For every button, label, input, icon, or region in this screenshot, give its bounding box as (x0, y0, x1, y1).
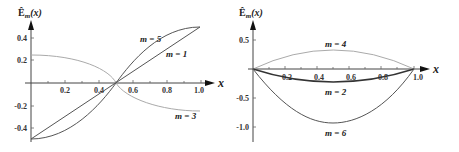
left-ytick-neg0.2: -0.2 (14, 102, 27, 111)
left-xtick-0.6: 0.6 (128, 86, 138, 95)
left-x-label: x (217, 76, 224, 90)
right-x-arrow-icon (420, 66, 430, 72)
right-ytick-neg1.0: -1.0 (236, 123, 249, 132)
left-xtick-0.8: 0.8 (162, 86, 172, 95)
right-y-label: Êm(x) (239, 7, 263, 20)
left-ytick-0.4: 0.4 (17, 34, 27, 43)
left-y-arrow-icon (28, 20, 34, 30)
label-m4: m = 4 (325, 39, 347, 49)
left-chart: 0.2 0.4 0.6 0.8 1.0 0.4 0.2 -0.2 -0.4 Êm… (14, 7, 224, 142)
label-m6: m = 6 (325, 128, 347, 138)
right-x-label: x (432, 62, 439, 76)
right-xtick-0.4: 0.4 (314, 73, 324, 82)
curve-m4 (253, 50, 414, 69)
label-m1: m = 1 (166, 49, 187, 59)
label-m2: m = 2 (325, 87, 347, 97)
right-ytick-neg0.5: -0.5 (236, 94, 249, 103)
curve-m2 (253, 69, 414, 82)
right-xtick-1.0: 1.0 (413, 73, 423, 82)
label-m5: m = 5 (140, 34, 162, 44)
figure: 0.2 0.4 0.6 0.8 1.0 0.4 0.2 -0.2 -0.4 Êm… (0, 0, 459, 152)
left-ytick-neg0.4: -0.4 (14, 124, 27, 133)
left-y-label: Êm(x) (18, 7, 42, 20)
left-ytick-0.2: 0.2 (17, 56, 27, 65)
label-m3: m = 3 (175, 111, 197, 121)
right-y-arrow-icon (250, 20, 256, 30)
left-xtick-1.0: 1.0 (194, 86, 204, 95)
right-chart: 0.2 0.4 0.6 0.8 1.0 0.5 -0.5 -1.0 Êm(x) … (236, 7, 439, 142)
left-x-arrow-icon (205, 80, 215, 86)
left-xtick-0.2: 0.2 (60, 86, 70, 95)
right-ytick-0.5: 0.5 (239, 36, 249, 45)
